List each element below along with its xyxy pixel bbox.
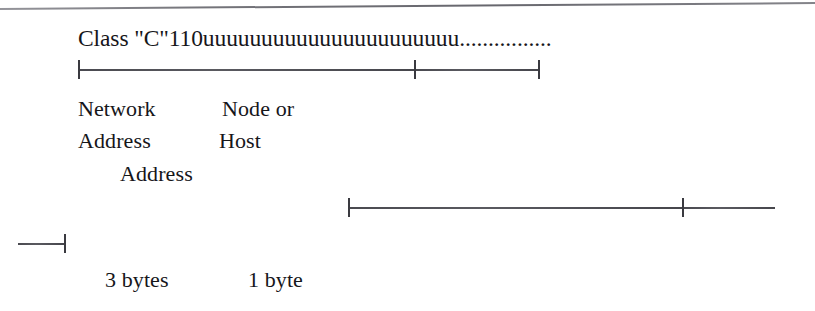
label-three-bytes: 3 bytes: [105, 268, 169, 291]
network-host-divider-tick: [414, 60, 416, 79]
label-network-address: Address: [78, 129, 151, 152]
three-bytes-span-bar: [350, 207, 682, 209]
stub-end-tick: [64, 234, 66, 253]
label-host-address: Address: [120, 162, 193, 185]
bytes-span-start-tick: [348, 198, 350, 217]
bytes-span-divider-tick: [682, 198, 684, 217]
bytes-ruler: [0, 198, 815, 218]
host-address-span-bar: [416, 69, 538, 71]
stub-ruler: [0, 234, 120, 254]
label-one-byte: 1 byte: [248, 268, 303, 291]
network-address-span-bar: [80, 69, 414, 71]
label-network: Network: [78, 97, 156, 120]
top-horizontal-rule: [0, 2, 815, 10]
network-host-ruler: [0, 60, 815, 80]
network-span-start-tick: [78, 60, 80, 79]
one-byte-span-bar: [684, 207, 775, 209]
bit-pattern-line: Class "C"110uuuuuuuuuuuuuuuuuuuuuu......…: [78, 26, 552, 51]
class-c-address-figure: Class "C"110uuuuuuuuuuuuuuuuuuuuuu......…: [0, 0, 815, 311]
label-host: Host: [219, 129, 261, 152]
host-span-end-tick: [538, 60, 540, 79]
stub-span-bar: [18, 243, 64, 245]
label-node-or: Node or: [222, 97, 294, 120]
